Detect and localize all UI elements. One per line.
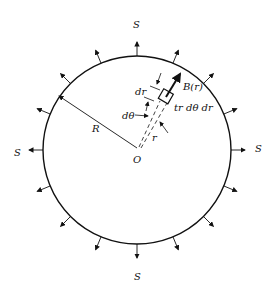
- dr-arrow: [157, 73, 161, 84]
- plate-diagram: R O B(r) tr dθ dr dr dθ r S S S S: [0, 0, 275, 286]
- traction-arrow: [61, 74, 71, 84]
- r-arrow: [160, 122, 168, 133]
- traction-arrow: [173, 50, 178, 63]
- surface-traction-arrows: [29, 42, 245, 258]
- center-label: O: [133, 154, 141, 165]
- dr-tick-bottom: [144, 97, 154, 101]
- sector-line-1: [139, 101, 160, 147]
- surface-label-left: S: [14, 147, 21, 158]
- dtheta-label: dθ: [122, 110, 134, 121]
- dtheta-arrow-right: [135, 115, 148, 116]
- traction-arrow: [173, 237, 178, 250]
- radius-line: [59, 96, 137, 148]
- r-label: r: [152, 132, 158, 143]
- traction-arrow: [37, 109, 50, 114]
- traction-arrow: [203, 216, 213, 226]
- body-force-label: B(r): [182, 81, 203, 92]
- radius-label: R: [91, 123, 100, 134]
- dtheta-arrow-up: [146, 102, 148, 111]
- surface-label-bottom: S: [134, 271, 141, 282]
- traction-arrow: [61, 216, 71, 226]
- traction-arrow: [224, 109, 237, 114]
- surface-label-right: S: [255, 143, 262, 154]
- surface-label-top: S: [133, 19, 140, 30]
- traction-arrow: [96, 237, 101, 250]
- traction-arrow: [203, 74, 213, 84]
- element-area-label: tr dθ dr: [174, 102, 214, 113]
- dr-label: dr: [135, 86, 147, 97]
- diagram-canvas: R O B(r) tr dθ dr dr dθ r S S S S: [0, 0, 275, 286]
- dr-tick-top: [150, 86, 160, 90]
- traction-arrow: [224, 186, 237, 191]
- traction-arrow: [96, 50, 101, 63]
- traction-arrow: [37, 186, 50, 191]
